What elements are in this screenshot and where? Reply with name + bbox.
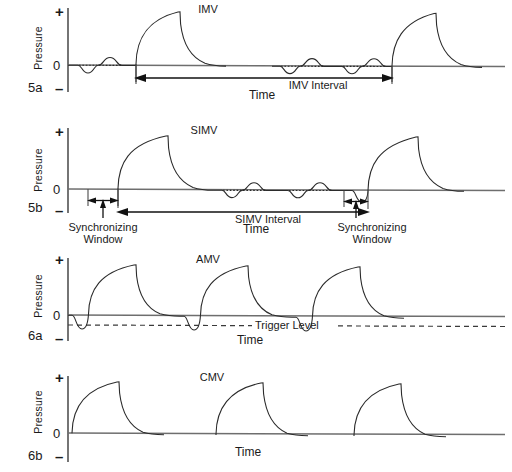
x-axis-title-5a: Time [249,88,276,102]
spontaneous-breath [214,190,242,197]
y-tick-plus-5a: + [55,3,64,20]
panel-label-6b: 6b [28,448,42,463]
y-axis-title-6b: Pressure [32,390,44,434]
y-tick-zero-6a: 0 [53,308,60,323]
y-tick-minus-6b: – [55,448,63,465]
panel-5b: 5b Pressure + 0 – Synchronizing Window [28,123,505,245]
mandatory-breath-waveform [72,382,164,435]
y-tick-zero-6b: 0 [53,426,60,441]
assisted-breath-waveform [201,266,293,318]
spontaneous-breath [272,66,300,73]
sync-window-label-2-line2: Window [352,233,391,245]
mandatory-breath-waveform [368,137,464,192]
x-axis-title-5b: Time [243,222,270,236]
spontaneous-breath [336,66,362,73]
y-axis-title-6a: Pressure [32,274,44,318]
mandatory-breath-waveform [118,136,214,206]
y-tick-minus-5b: – [55,202,63,219]
spontaneous-breath [98,58,136,66]
panel-6b: 6b Pressure + 0 – CMV Time [28,369,505,465]
y-tick-plus-5b: + [55,123,64,140]
panel-label-5a: 5a [28,80,43,95]
mandatory-breath-waveform [354,384,446,437]
trigger-dip-waveform [68,314,89,329]
mode-label-simv: SIMV [191,124,219,136]
sync-window-label-1-line2: Window [83,233,122,245]
assisted-breath-waveform [313,267,405,319]
sync-window-label-1-line1: Synchronizing [68,221,137,233]
ventilator-waveform-figure: 5a Pressure + 0 – IMV Interval Time [0,0,512,472]
y-tick-zero-5a: 0 [53,58,60,73]
y-tick-plus-6a: + [55,251,64,268]
mode-label-amv: AMV [196,253,221,265]
trigger-dip-waveform [180,315,201,330]
y-axis-title-5a: Pressure [32,26,44,70]
assisted-breath-waveform [89,265,181,317]
panel-5a: 5a Pressure + 0 – IMV Interval Time [28,3,505,102]
spontaneous-breath [282,190,308,197]
y-tick-minus-6a: – [55,330,63,347]
panel-6a: 6a Pressure + 0 – Trigger Level AMV Time [28,251,505,347]
mandatory-breath-waveform [392,13,482,82]
x-axis-title-6a: Time [237,333,264,347]
x-axis-title-6b: Time [235,445,262,459]
mandatory-breath-waveform [216,383,308,436]
x-axis-baseline-6a [68,315,505,317]
y-tick-minus-5a: – [55,80,63,97]
y-tick-plus-6b: + [55,369,64,386]
panel-label-6a: 6a [28,328,43,343]
y-axis-title-5b: Pressure [32,148,44,192]
y-tick-zero-5b: 0 [53,182,60,197]
imv-interval-label: IMV Interval [289,79,348,91]
arrow-head-right [358,208,370,216]
mandatory-breath-waveform [136,12,226,82]
mode-label-imv: IMV [198,3,218,15]
sync-window-label-2-line1: Synchronizing [337,221,406,233]
arrow-head-left [116,208,128,216]
mode-label-cmv: CMV [200,371,225,383]
panel-label-5b: 5b [28,200,42,215]
spontaneous-breath [68,65,98,73]
